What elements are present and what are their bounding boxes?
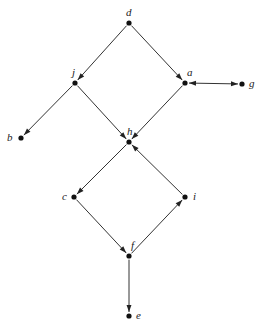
node-f xyxy=(126,253,131,258)
node-label-a: a xyxy=(187,67,193,78)
edge-i-h xyxy=(132,145,183,195)
edge-j-b xyxy=(24,86,73,136)
node-label-b: b xyxy=(7,132,13,143)
node-h xyxy=(126,139,131,144)
edge-a-g xyxy=(189,83,238,84)
edge-j-h xyxy=(77,86,126,139)
node-j xyxy=(72,80,77,85)
node-label-h: h xyxy=(127,126,133,137)
edge-d-a xyxy=(131,26,182,80)
edges-layer xyxy=(24,26,238,312)
graph-canvas xyxy=(0,0,262,324)
edge-h-c xyxy=(77,145,127,195)
edge-a-h xyxy=(132,86,183,139)
edge-f-i xyxy=(131,200,182,253)
node-i xyxy=(182,194,187,199)
node-label-e: e xyxy=(136,310,141,321)
node-g xyxy=(239,81,244,86)
nodes-layer xyxy=(18,20,244,318)
node-label-f: f xyxy=(131,240,134,251)
node-e xyxy=(126,313,131,318)
edge-c-f xyxy=(76,200,126,253)
edge-d-j xyxy=(78,26,127,80)
node-label-d: d xyxy=(126,7,132,18)
node-label-j: j xyxy=(72,67,75,78)
node-a xyxy=(182,80,187,85)
node-label-g: g xyxy=(249,78,255,89)
node-c xyxy=(71,194,76,199)
node-d xyxy=(126,20,131,25)
node-b xyxy=(18,135,23,140)
node-label-i: i xyxy=(193,191,196,202)
node-label-c: c xyxy=(62,191,67,202)
